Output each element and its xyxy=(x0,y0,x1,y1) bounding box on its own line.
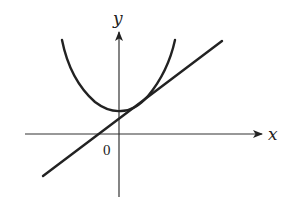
x-axis-label: x xyxy=(268,124,278,144)
tangent-line xyxy=(43,41,222,176)
y-axis-label: y xyxy=(112,8,123,28)
graph-canvas: y x 0 xyxy=(0,0,301,198)
origin-label: 0 xyxy=(103,142,111,158)
